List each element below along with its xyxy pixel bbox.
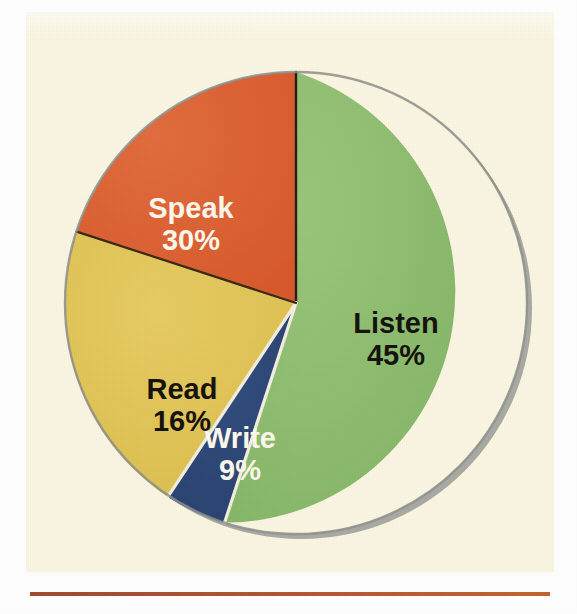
pie-label-read-name: Read [147,373,218,405]
pie-chart-container: Listen 45% Write 9% Read 16% Speak 30% [60,55,532,547]
pie-chart-figure: Listen 45% Write 9% Read 16% Speak 30% [0,0,577,614]
pie-label-speak-name: Speak [148,192,234,224]
bottom-horizontal-rule [30,592,550,596]
pie-label-write-value: 9% [219,454,261,486]
pie-label-write-name: Write [204,422,276,454]
pie-label-speak-value: 30% [162,224,220,256]
pie-label-read: Read 16% [147,373,218,437]
pie-chart-svg: Listen 45% Write 9% Read 16% Speak 30% [60,55,532,547]
pie-label-listen-value: 45% [367,339,425,371]
paper-top-highlight [26,12,554,38]
pie-label-listen-name: Listen [353,307,438,339]
pie-label-read-value: 16% [153,405,211,437]
